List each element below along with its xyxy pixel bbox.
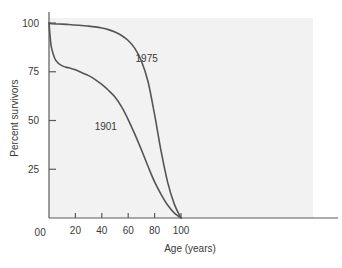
x-tick-label-20: 20 [70, 225, 82, 236]
y-tick-label-25: 25 [28, 164, 40, 175]
y-tick-label-75: 75 [28, 66, 40, 77]
y-axis-tick-labels: 0255075100 [22, 18, 40, 239]
x-tick-label-40: 40 [96, 225, 108, 236]
y-tick-label-0: 0 [34, 227, 40, 238]
x-tick-label-100: 100 [173, 225, 190, 236]
x-axis-title: Age (years) [164, 243, 216, 254]
plot-background [49, 18, 313, 218]
chart-canvas: 020406080100 0255075100 19751901 Age (ye… [0, 0, 342, 268]
x-tick-label-0: 0 [40, 227, 46, 238]
survival-curve-chart: 020406080100 0255075100 19751901 Age (ye… [0, 0, 342, 268]
y-tick-label-50: 50 [28, 115, 40, 126]
series-label-1901: 1901 [95, 121, 118, 132]
y-tick-label-100: 100 [22, 18, 39, 29]
x-tick-label-60: 60 [123, 225, 135, 236]
series-label-1975: 1975 [136, 53, 159, 64]
y-axis-title: Percent survivors [9, 79, 20, 156]
x-tick-label-80: 80 [149, 225, 161, 236]
x-axis-tick-labels: 020406080100 [40, 225, 190, 238]
